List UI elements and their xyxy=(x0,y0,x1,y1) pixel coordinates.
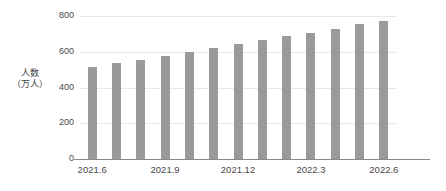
y-axis-tick-label: 800 xyxy=(44,10,74,20)
x-axis-tick-labels: 2021.62021.92021.122022.32022.6 xyxy=(80,164,420,180)
bar xyxy=(234,44,243,159)
y-axis-tick-label: 600 xyxy=(44,46,74,56)
bar xyxy=(112,63,121,159)
x-axis-tick-label: 2021.6 xyxy=(62,164,122,175)
bars-layer xyxy=(80,16,396,159)
bar-chart: 人数 （万人） 0200400600800 2021.62021.92021.1… xyxy=(0,0,446,191)
plot-area xyxy=(80,16,396,159)
y-axis-tick-label: 400 xyxy=(44,82,74,92)
axis-baseline xyxy=(74,159,430,160)
bar xyxy=(258,40,267,159)
bar xyxy=(136,60,145,159)
x-axis-tick-label: 2022.6 xyxy=(354,164,414,175)
bar xyxy=(355,24,364,159)
bar xyxy=(161,56,170,159)
bar xyxy=(331,29,340,159)
y-axis-tick-label: 0 xyxy=(44,153,74,163)
y-axis-tick-labels: 0200400600800 xyxy=(42,16,74,159)
x-axis-tick-label: 2021.12 xyxy=(208,164,268,175)
bar xyxy=(209,48,218,159)
bar xyxy=(282,36,291,159)
y-axis-tick-label: 200 xyxy=(44,117,74,127)
bar xyxy=(88,67,97,159)
bar xyxy=(185,52,194,159)
bar xyxy=(306,33,315,159)
x-axis-tick-label: 2021.9 xyxy=(135,164,195,175)
bar xyxy=(379,21,388,159)
x-axis-tick-label: 2022.3 xyxy=(281,164,341,175)
